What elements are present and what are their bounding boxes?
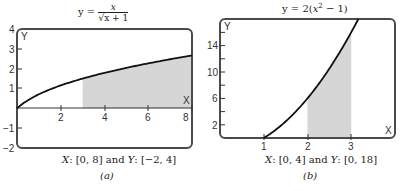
svg-text:4: 4 [9,24,15,35]
graph-a-sublabel: (a) [100,170,114,181]
svg-text:6: 6 [212,93,218,104]
svg-text:10: 10 [207,67,219,78]
shaded-region-b [308,32,352,138]
graph-a-window-caption: X: [0, 8] and Y: [−2, 4] [62,154,176,165]
svg-text:1: 1 [261,141,267,152]
svg-text:2: 2 [58,112,64,123]
svg-text:2: 2 [9,64,15,75]
graph-panel-a: y = x √x + 1 4 3 [0,0,202,191]
svg-text:8: 8 [183,112,189,123]
svg-text:4: 4 [102,112,108,123]
svg-text:3: 3 [9,44,15,55]
shaded-region-a [83,55,192,108]
graph-panel-b: y = 2(x2 − 1) 14 10 6 2 1 2 [202,0,404,191]
graph-b-window-caption: X: [0, 4] and Y: [0, 18] [265,154,377,165]
svg-text:1: 1 [9,83,15,94]
x-axis-label-a: X [183,95,190,106]
svg-text:−2: −2 [3,143,15,154]
x-axis-label-b: X [385,125,392,136]
svg-text:6: 6 [145,112,151,123]
svg-text:14: 14 [207,40,219,51]
graph-b-sublabel: (b) [303,170,317,181]
svg-text:−1: −1 [3,123,15,134]
svg-text:2: 2 [212,120,218,131]
y-axis-label-a: Y [21,31,28,42]
y-axis-label-b: Y [224,21,231,32]
svg-text:3: 3 [348,141,354,152]
svg-text:2: 2 [305,141,311,152]
